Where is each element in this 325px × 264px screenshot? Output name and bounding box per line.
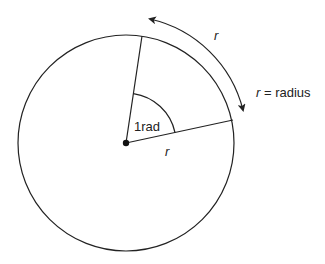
angle-label: 1rad (134, 119, 160, 134)
arc-length-arrow (150, 19, 243, 110)
radian-diagram: 1rad r r r = radius (0, 0, 325, 264)
radius-label: r (165, 144, 170, 159)
center-point (123, 140, 129, 146)
arc-length-label: r (214, 28, 219, 43)
legend-definition: = radius (260, 85, 311, 100)
legend-label: r = radius (256, 85, 311, 100)
